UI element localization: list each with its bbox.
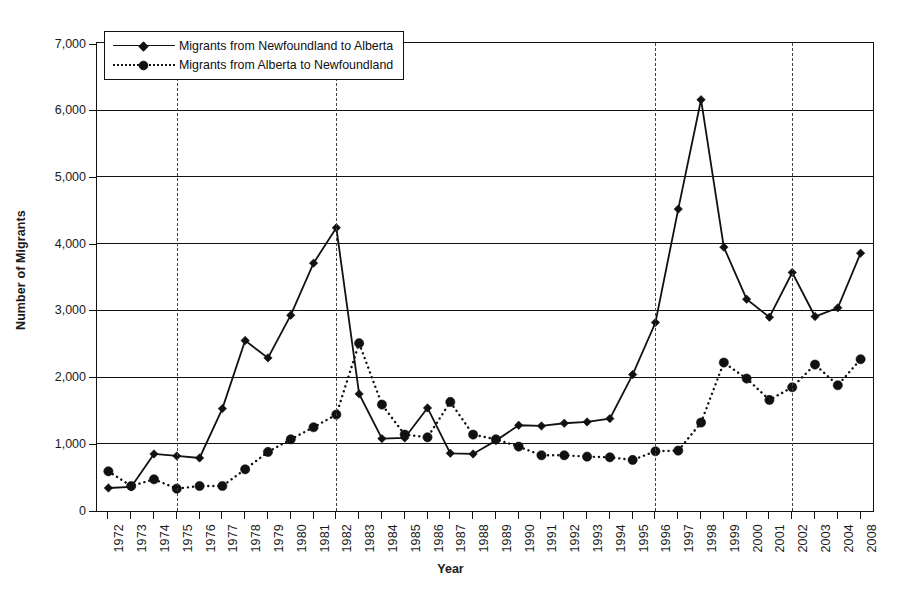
gridline [97,176,873,177]
x-tick-label-1995: 1995 [637,524,651,553]
gridline [97,377,873,378]
y-axis-title-text: Number of Migrants [14,110,28,330]
legend-item-newfoundland-to-alberta[interactable]: Migrants from Newfoundland to Alberta [113,36,393,55]
y-tick-label: 7,000 [34,37,86,51]
data-point [560,419,568,427]
data-point [446,449,454,457]
data-point [720,243,728,251]
x-tick-label-1987: 1987 [454,524,468,553]
data-point [765,395,774,404]
x-tick-label-1994: 1994 [614,524,628,553]
diamond-marker-icon [138,41,149,52]
data-point [582,452,591,461]
x-tick-mark [381,512,382,519]
x-tick-mark [267,512,268,519]
x-tick-label-1980: 1980 [295,524,309,553]
x-tick-mark [563,512,564,519]
data-point [400,430,409,439]
x-tick-label-2003: 2003 [819,524,833,553]
data-point [195,481,204,490]
x-tick-label-1990: 1990 [523,524,537,553]
data-point [104,467,113,476]
x-tick-label-1997: 1997 [682,524,696,553]
data-point [355,390,363,398]
x-tick-label-1983: 1983 [363,524,377,553]
data-point [469,450,477,458]
x-tick-mark [153,512,154,519]
x-tick-label-2001: 2001 [773,524,787,553]
x-tick-mark [518,512,519,519]
reference-line-2002 [792,43,793,511]
x-axis-title: Year [0,562,901,576]
y-tick-label: 2,000 [34,370,86,384]
x-tick-label-1978: 1978 [249,524,263,553]
x-tick-mark [495,512,496,519]
data-point [446,397,455,406]
y-tick-label: 1,000 [34,437,86,451]
x-tick-mark [632,512,633,519]
x-tick-mark [449,512,450,519]
x-tick-mark [290,512,291,519]
x-tick-label-2004: 2004 [842,524,856,553]
data-point [218,481,227,490]
y-tick-mark [89,511,96,512]
x-tick-label-1979: 1979 [272,524,286,553]
legend: Migrants from Newfoundland to Alberta Mi… [104,31,404,80]
data-point [696,418,705,427]
x-tick-mark [472,512,473,519]
x-tick-mark [723,512,724,519]
x-tick-label-1993: 1993 [591,524,605,553]
x-tick-label-1972: 1972 [112,524,126,553]
x-tick-mark [586,512,587,519]
data-point [605,453,614,462]
data-point [810,360,819,369]
x-tick-mark [199,512,200,519]
migration-line-chart: Number of Migrants Year 01,0002,0003,000… [0,0,901,593]
y-tick-label: 5,000 [34,170,86,184]
x-tick-mark [244,512,245,519]
x-tick-label-1996: 1996 [659,524,673,553]
gridline [97,443,873,444]
gridline [97,243,873,244]
data-point [674,446,683,455]
legend-key-dashed-circle [113,58,175,72]
x-tick-label-1984: 1984 [386,524,400,553]
y-axis-title: Number of Migrants [14,0,28,170]
x-tick-mark [791,512,792,519]
data-point [833,381,842,390]
data-point [469,430,478,439]
data-point [811,312,819,320]
reference-line-1975 [177,43,178,511]
x-tick-mark [860,512,861,519]
circle-marker-icon [138,60,149,71]
data-point [628,455,637,464]
data-point [149,475,158,484]
x-tick-label-1988: 1988 [477,524,491,553]
x-tick-label-1991: 1991 [545,524,559,553]
x-tick-label-1982: 1982 [340,524,354,553]
data-point [195,454,203,462]
y-tick-label: 6,000 [34,103,86,117]
x-tick-label-1974: 1974 [158,524,172,553]
x-tick-label-2002: 2002 [796,524,810,553]
legend-item-alberta-to-newfoundland[interactable]: Migrants from Alberta to Newfoundland [113,55,393,74]
y-tick-mark [89,444,96,445]
x-tick-label-1973: 1973 [135,524,149,553]
legend-label-alberta-to-newfoundland: Migrants from Alberta to Newfoundland [179,58,393,72]
data-point [856,249,864,257]
x-tick-mark [130,512,131,519]
legend-label-newfoundland-to-alberta: Migrants from Newfoundland to Alberta [179,39,393,53]
x-tick-mark [837,512,838,519]
data-point [697,96,705,104]
x-tick-mark [107,512,108,519]
data-point [355,339,364,348]
x-tick-mark [335,512,336,519]
data-point [583,418,591,426]
x-tick-mark [427,512,428,519]
x-tick-mark [540,512,541,519]
x-tick-mark [221,512,222,519]
y-tick-label: 0 [34,504,86,518]
data-point [104,484,112,492]
data-point [537,451,546,460]
y-tick-mark [89,244,96,245]
